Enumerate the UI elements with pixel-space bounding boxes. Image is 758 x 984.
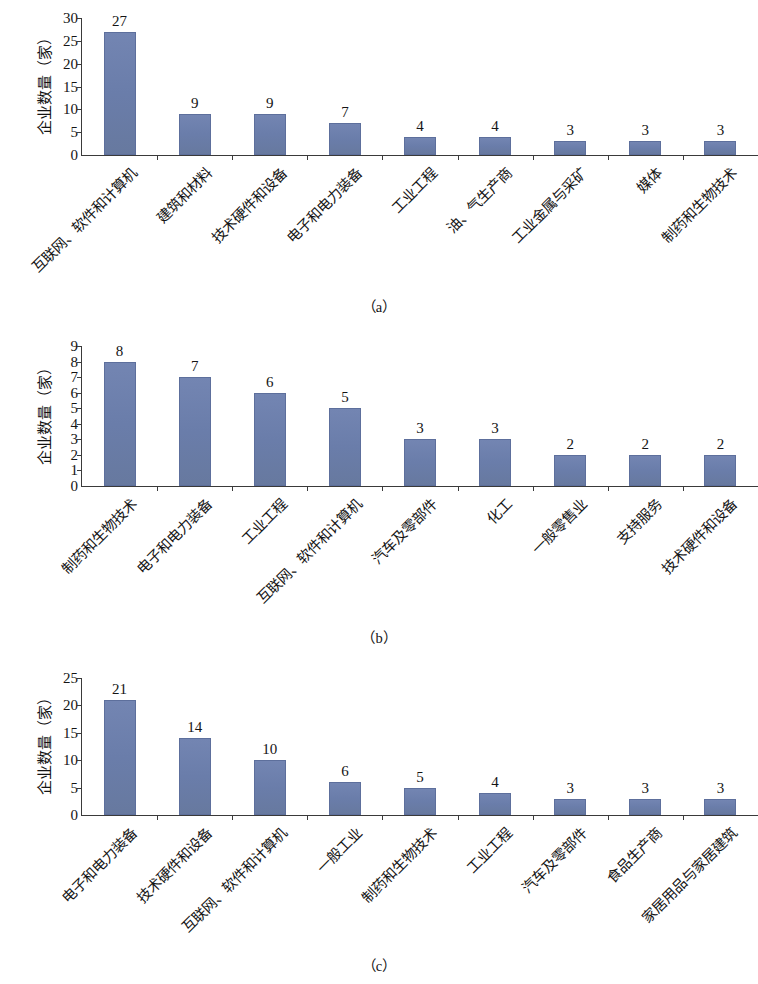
bar-value-label: 27: [112, 14, 127, 29]
y-axis-tick-mark: [77, 41, 82, 42]
bar-value-label: 3: [717, 123, 725, 138]
bar: [404, 788, 436, 815]
bar-value-label: 3: [642, 123, 650, 138]
x-axis-tick-mark: [307, 815, 308, 820]
y-axis-tick-mark: [77, 362, 82, 363]
x-axis-tick-mark: [608, 815, 609, 820]
bar: [329, 408, 361, 486]
bar-series-b: 876533222: [82, 346, 758, 486]
bar-value-label: 3: [416, 421, 424, 436]
bar: [704, 455, 736, 486]
x-axis-category-label: 一般零售业: [530, 497, 591, 558]
y-axis-tick-labels-b: 0123456789: [50, 328, 78, 620]
x-axis-category-label: 电子和电力装备: [285, 166, 366, 247]
y-axis-tick-mark: [77, 346, 82, 347]
x-axis-tick-mark: [533, 486, 534, 491]
bar: [254, 393, 286, 486]
bar-value-label: 3: [566, 781, 574, 796]
bar: [554, 455, 586, 486]
x-axis-category-label: 互联网、软件和计算机: [30, 166, 140, 276]
y-axis-tick-label: 25: [63, 671, 78, 686]
bar-value-label: 3: [566, 123, 574, 138]
x-axis-tick-mark: [307, 486, 308, 491]
chart-panel-a: 企业数量（家） 051015202530 2799744333 互联网、软件和计…: [0, 0, 758, 325]
x-axis-tick-mark: [458, 486, 459, 491]
x-axis-category-label: 油、气生产商: [445, 166, 516, 237]
y-axis-tick-label: 15: [63, 725, 78, 740]
bar: [404, 137, 436, 155]
panel-caption-b: （b）: [0, 626, 758, 647]
bar-value-label: 6: [266, 375, 274, 390]
x-axis-tick-mark: [533, 815, 534, 820]
x-axis-tick-mark: [382, 486, 383, 491]
x-axis-tick-mark: [382, 155, 383, 160]
x-axis-tick-mark: [683, 486, 684, 491]
bar-series-a: 2799744333: [82, 18, 758, 155]
y-axis-tick-label: 20: [63, 56, 78, 71]
y-axis-tick-label: 0: [71, 148, 79, 163]
y-axis-tick-mark: [77, 455, 82, 456]
x-axis-tick-mark: [232, 486, 233, 491]
bar-value-label: 14: [187, 720, 202, 735]
y-axis-tick-labels-c: 0510152025: [50, 658, 78, 948]
bar: [179, 377, 211, 486]
y-axis-tick-mark: [77, 408, 82, 409]
y-axis-tick-mark: [77, 64, 82, 65]
x-axis-tick-mark: [382, 815, 383, 820]
bar-value-label: 21: [112, 682, 127, 697]
bar: [329, 782, 361, 815]
y-axis-tick-label: 25: [63, 33, 78, 48]
y-axis-tick-mark: [77, 393, 82, 394]
x-axis-category-label: 工业工程: [389, 166, 440, 217]
y-axis-tick-mark: [77, 439, 82, 440]
y-axis-tick-label: 0: [71, 808, 79, 823]
x-axis-category-label: 电子和电力装备: [134, 497, 215, 578]
x-axis-tick-mark: [458, 155, 459, 160]
bar: [479, 793, 511, 815]
x-axis-category-label: 工业金属与采矿: [510, 166, 591, 247]
y-axis-tick-mark: [77, 377, 82, 378]
x-axis-category-label: 一般工业: [314, 826, 365, 877]
bar-value-label: 2: [717, 437, 725, 452]
x-axis-category-label: 媒体: [635, 166, 666, 197]
chart-plot-area-c: 企业数量（家） 0510152025 211410654333 电子和电力装备技…: [0, 658, 758, 948]
bar-value-label: 4: [491, 775, 499, 790]
bar-value-label: 4: [416, 119, 424, 134]
bar: [104, 700, 136, 815]
x-axis-tick-mark: [458, 815, 459, 820]
bar-value-label: 3: [717, 781, 725, 796]
bar-value-label: 7: [341, 105, 349, 120]
y-axis-tick-mark: [77, 678, 82, 679]
bar: [104, 32, 136, 155]
x-axis-category-label: 技术硬件和设备: [134, 826, 215, 907]
plot-frame-a: 2799744333: [81, 18, 758, 156]
bar: [629, 141, 661, 155]
bar-value-label: 5: [341, 390, 349, 405]
x-axis-category-label: 制药和生物技术: [660, 166, 741, 247]
y-axis-tick-label: 10: [63, 102, 78, 117]
bar: [179, 738, 211, 815]
bar-value-label: 4: [491, 119, 499, 134]
bar-value-label: 6: [341, 764, 349, 779]
x-axis-tick-mark: [157, 155, 158, 160]
bar-value-label: 2: [566, 437, 574, 452]
chart-panel-b: 企业数量（家） 0123456789 876533222 制药和生物技术电子和电…: [0, 328, 758, 656]
bar-value-label: 7: [191, 359, 199, 374]
x-axis-category-label: 技术硬件和设备: [660, 497, 741, 578]
x-axis-category-label: 化工: [484, 497, 515, 528]
y-axis-tick-mark: [77, 132, 82, 133]
bar: [704, 141, 736, 155]
x-axis-tick-mark: [533, 155, 534, 160]
plot-frame-b: 876533222: [81, 346, 758, 487]
y-axis-tick-label: 0: [71, 479, 79, 494]
y-axis-tick-label: 15: [63, 79, 78, 94]
x-axis-category-label: 工业工程: [239, 497, 290, 548]
bar-value-label: 3: [491, 421, 499, 436]
x-axis-tick-mark: [608, 486, 609, 491]
x-axis-category-label: 汽车及零部件: [370, 497, 441, 568]
bar: [254, 760, 286, 815]
x-axis-category-label: 技术硬件和设备: [209, 166, 290, 247]
x-axis-tick-mark: [683, 155, 684, 160]
x-axis-tick-mark: [157, 486, 158, 491]
x-axis-tick-mark: [608, 155, 609, 160]
